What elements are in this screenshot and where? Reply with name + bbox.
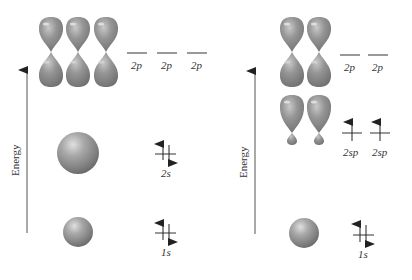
level-label-2s: 2s — [161, 167, 171, 179]
level-label-2p: 2p — [344, 61, 356, 73]
energy-axis: Energy — [237, 71, 255, 234]
level-label-2p: 2p — [191, 59, 203, 71]
p-orbital-icon — [280, 17, 304, 87]
p-orbital-icon — [307, 17, 331, 87]
level-label-2p: 2p — [161, 59, 173, 71]
level-label-1s: 1s — [358, 248, 368, 260]
2p-levels: 2p 2p 2p — [127, 53, 207, 71]
1s-level: 1s — [353, 224, 374, 260]
sp-hybrid-orbital-icon — [307, 95, 331, 145]
energy-axis: Energy — [9, 70, 27, 233]
2s-orbital-sphere-icon — [57, 132, 99, 174]
level-label-2p: 2p — [131, 59, 143, 71]
1s-level: 1s — [155, 223, 176, 258]
orbital-energy-diagram: Energy 2p 2p 2p 2s 1s — [0, 0, 412, 280]
2p-levels: 2p 2p — [340, 55, 388, 73]
2sp-levels: 2sp 2sp — [342, 122, 390, 158]
level-label-2sp: 2sp — [343, 146, 359, 158]
sp-hybrid-orbital-icon — [280, 95, 304, 145]
right-panel: Energy 2p 2p 2sp 2sp 1 — [237, 17, 390, 260]
1s-orbital-sphere-icon — [289, 218, 319, 248]
level-label-1s: 1s — [161, 246, 171, 258]
p-orbital-icon — [66, 17, 90, 87]
2s-level: 2s — [155, 144, 176, 179]
p-orbital-icon — [39, 17, 63, 87]
left-panel: Energy 2p 2p 2p 2s 1s — [9, 17, 207, 258]
level-label-2p: 2p — [372, 61, 384, 73]
energy-axis-label: Energy — [237, 146, 249, 178]
level-label-2sp: 2sp — [372, 146, 388, 158]
1s-orbital-sphere-icon — [63, 217, 93, 247]
p-orbital-icon — [94, 17, 118, 87]
energy-axis-label: Energy — [9, 144, 21, 176]
